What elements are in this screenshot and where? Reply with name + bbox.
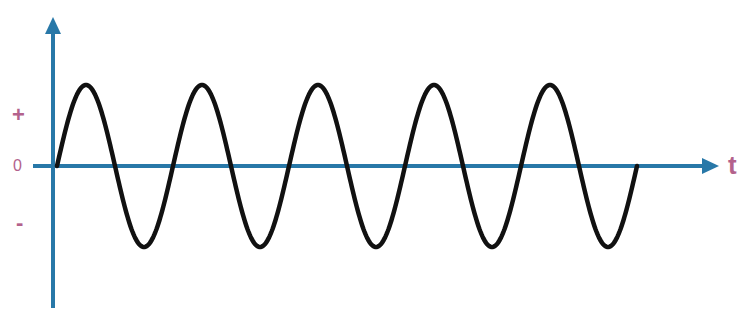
zero-label: 0 <box>13 158 22 174</box>
sine-wave-diagram <box>0 0 752 326</box>
y-axis-arrowhead-icon <box>45 17 61 34</box>
time-axis-label: t <box>728 152 737 178</box>
positive-label: + <box>12 104 25 126</box>
x-axis-arrowhead-icon <box>702 158 719 174</box>
negative-label: - <box>16 212 23 234</box>
